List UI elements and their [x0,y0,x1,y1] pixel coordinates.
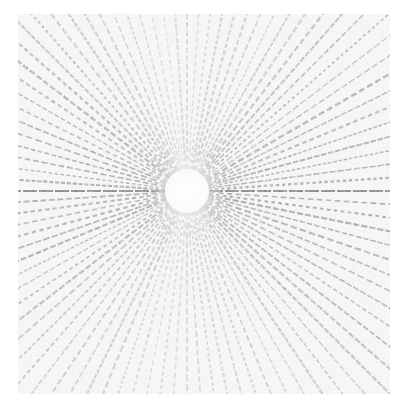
starburst-pattern [18,14,390,394]
center-glow [147,151,227,231]
starburst-rays [18,14,390,394]
image-canvas [0,0,405,409]
